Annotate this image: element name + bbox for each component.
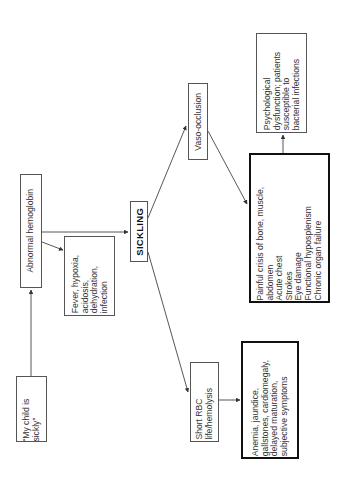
- node-my-child-sickly: “My child is sickly”: [16, 376, 47, 442]
- node-painful-crisis: Painful crisis of bone, muscle, abdomen …: [249, 153, 330, 303]
- node-anemia-jaundice: Anemia, jaundice, gallstones, cardiomega…: [241, 341, 299, 459]
- node-abnormal-hemoglobin: Abnormal hemoglobin: [20, 174, 42, 288]
- node-psychological-dysfunction: Psychological dysfunction; patients susc…: [256, 33, 307, 133]
- node-sickling: SICKLING: [130, 201, 148, 262]
- node-label: Painful crisis of bone, muscle, abdomen …: [256, 155, 323, 301]
- node-label: Fever, hypoxia, acidosis, dehydration, i…: [70, 237, 108, 313]
- node-fever-hypoxia: Fever, hypoxia, acidosis, dehydration, i…: [64, 236, 115, 316]
- node-label: Abnormal hemoglobin: [26, 174, 36, 288]
- node-label: Vaso-occlusion: [194, 83, 204, 160]
- node-label: Short RBC life/hemolysis: [195, 364, 214, 440]
- node-label: SICKLING: [135, 201, 145, 262]
- node-vaso-occlusion: Vaso-occlusion: [188, 83, 208, 160]
- node-label: “My child is sickly”: [22, 376, 41, 442]
- node-label: Psychological dysfunction; patients susc…: [262, 34, 300, 130]
- node-short-rbc-life: Short RBC life/hemolysis: [190, 362, 219, 442]
- node-label: Anemia, jaundice, gallstones, cardiomega…: [251, 342, 289, 456]
